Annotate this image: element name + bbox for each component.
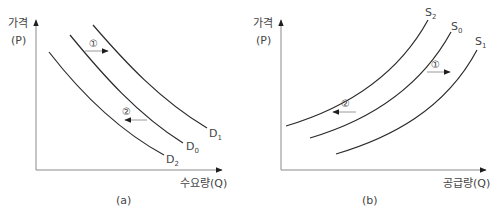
marker-2-a: ② bbox=[122, 106, 131, 117]
caption-b: (b) bbox=[362, 194, 378, 207]
caption-a: (a) bbox=[116, 194, 131, 207]
label-s0: S0 bbox=[451, 20, 462, 35]
marker-2-b: ② bbox=[341, 98, 350, 109]
demand-curve-d2 bbox=[49, 52, 164, 155]
supply-curve-s0 bbox=[310, 32, 451, 138]
label-s2: S2 bbox=[425, 6, 436, 21]
y-axis-unit-a: (P) bbox=[11, 34, 26, 47]
x-axis-label-b: 공급량(Q) bbox=[443, 177, 490, 190]
y-axis-unit-b: (P) bbox=[256, 34, 271, 47]
x-axis-label-a: 수요량(Q) bbox=[180, 177, 227, 190]
label-d0: D0 bbox=[186, 140, 199, 155]
label-s1: S1 bbox=[475, 35, 486, 50]
panel-a-demand: 가격 (P) 수요량(Q) (a) D1 D0 D2 ① ② bbox=[8, 17, 227, 207]
diagram-canvas: 가격 (P) 수요량(Q) (a) D1 D0 D2 ① ② 가격 (P) 공급… bbox=[0, 0, 494, 215]
supply-curve-s1 bbox=[336, 50, 477, 154]
demand-curve-d1 bbox=[93, 25, 207, 128]
label-d1: D1 bbox=[209, 127, 222, 142]
supply-curve-s2 bbox=[286, 20, 428, 126]
panel-b-supply: 가격 (P) 공급량(Q) (b) S2 S0 S1 ① ② bbox=[253, 6, 490, 207]
marker-1-b: ① bbox=[431, 59, 440, 70]
y-axis-label-b: 가격 bbox=[253, 17, 273, 30]
label-d2: D2 bbox=[166, 153, 179, 168]
marker-1-a: ① bbox=[89, 38, 98, 49]
y-axis-label-a: 가격 bbox=[8, 17, 28, 30]
